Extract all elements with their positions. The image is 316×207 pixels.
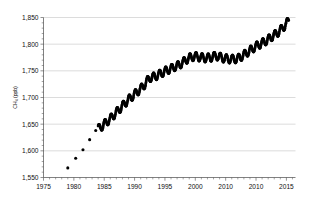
y-axis-title: CH₄ (ppb): [12, 86, 18, 109]
x-tick-label: 1985: [97, 183, 112, 190]
data-point: [74, 157, 77, 160]
y-tick-label: 1,750: [22, 67, 39, 74]
data-points: [66, 17, 290, 169]
x-tick-label: 2010: [249, 183, 264, 190]
data-point: [66, 166, 69, 169]
data-point: [81, 148, 84, 151]
x-tick-label: 2000: [188, 183, 203, 190]
x-tick-label: 1990: [127, 183, 142, 190]
x-tick-label: 1975: [36, 183, 51, 190]
y-axis-title-text: CH₄ (ppb): [12, 86, 18, 109]
data-point: [287, 19, 290, 22]
x-tick-label: 2010: [218, 183, 233, 190]
data-point: [94, 129, 97, 132]
y-tick-label: 1,700: [22, 94, 39, 101]
chart-canvas: 1,5501,6001,6501,7001,7501,8001,850 1975…: [0, 0, 316, 207]
x-tick-label: 1980: [67, 183, 82, 190]
x-axis-ticks: 197519801985199019952000201020102015: [36, 178, 294, 190]
data-point: [88, 138, 91, 141]
y-tick-label: 1,550: [22, 174, 39, 181]
gridlines: [44, 18, 296, 151]
y-tick-label: 1,800: [22, 41, 39, 48]
methane-concentration-chart: 1,5501,6001,6501,7001,7501,8001,850 1975…: [0, 0, 316, 207]
x-tick-label: 1995: [158, 183, 173, 190]
y-tick-label: 1,650: [22, 121, 39, 128]
x-tick-label: 2015: [279, 183, 294, 190]
y-tick-label: 1,850: [22, 14, 39, 21]
y-axis-ticks: 1,5501,6001,6501,7001,7501,8001,850: [22, 14, 44, 181]
y-tick-label: 1,600: [22, 147, 39, 154]
